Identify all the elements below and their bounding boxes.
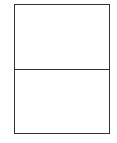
outer-rectangle	[14, 4, 110, 134]
bottom-panel	[15, 71, 109, 134]
diagram-canvas	[0, 0, 117, 143]
top-panel	[15, 5, 109, 70]
